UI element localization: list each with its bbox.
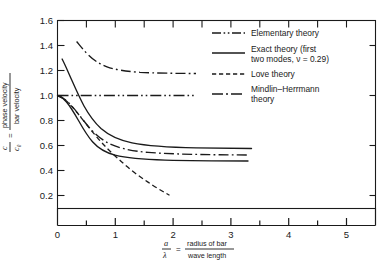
x-axis-line [58,209,376,226]
y-tick-label: 0.2 [40,190,53,201]
chart-svg: 1.6 1.4 1.2 1.0 0.8 0.6 0.4 0.2 0 1 2 3 … [0,0,386,264]
y-tick-label: 1.6 [40,15,53,26]
x-tick-label: 2 [170,229,175,240]
y-axis-symbol-denominator: c₀ [12,144,21,151]
y-tick-label: 1.2 [40,65,53,76]
x-tick-label: 3 [228,229,233,240]
x-axis-symbol-numerator: a [164,239,168,248]
y-axis-denominator-text: bar velocity [12,87,21,124]
x-tick-label: 1 [113,229,118,240]
x-axis-numerator-text: radius of bar [187,239,228,248]
y-tick-label: 1.0 [40,90,53,101]
legend-label-line2: theory [251,94,275,104]
y-tick-labels: 1.6 1.4 1.2 1.0 0.8 0.6 0.4 0.2 [40,15,53,201]
y-axis-title: c c₀ = phase velocity bar velocity [0,73,21,152]
x-tick-label: 0 [55,229,60,240]
x-tick-label: 5 [344,229,349,240]
y-tick-label: 0.4 [40,165,53,176]
phase-velocity-dispersion-chart: 1.6 1.4 1.2 1.0 0.8 0.6 0.4 0.2 0 1 2 3 … [0,0,386,264]
legend-label: Mindlin–Herrmann [251,84,320,94]
y-tick-label: 1.4 [40,40,53,51]
legend-label: Love theory [251,69,296,79]
x-axis-equals: = [176,245,181,254]
legend-label-line2: two modes, ν = 0.29) [251,54,329,64]
y-axis-equals: = [6,133,15,138]
y-axis-numerator-text: phase velocity [0,82,9,128]
x-tick-label: 4 [286,229,291,240]
y-axis-symbol-numerator: c [0,146,9,150]
legend-label: Exact theory (first [251,44,317,54]
y-tick-label: 0.8 [40,115,53,126]
x-axis-symbol-denominator: λ [162,251,167,260]
plot-frame [58,21,376,209]
x-axis-title: a λ = radius of bar wave length [162,239,234,260]
y-tick-label: 0.6 [40,140,53,151]
legend-label: Elementary theory [251,28,320,38]
x-axis-denominator-text: wave length [187,251,226,260]
